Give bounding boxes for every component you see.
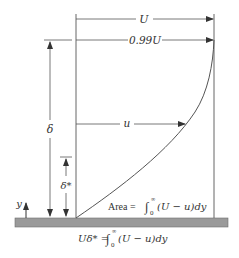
label-099U: 0.99U [129, 34, 162, 46]
flat-plate [15, 218, 228, 227]
label-delta: δ [47, 123, 54, 136]
svg-text:Area =: Area = [108, 201, 136, 212]
svg-text:Uδ* =: Uδ* = [78, 233, 109, 244]
svg-text:(U − u)dy: (U − u)dy [157, 201, 207, 212]
label-u: u [124, 117, 131, 129]
velocity-profile-curve [76, 40, 214, 218]
displacement-equation: Uδ* = ∫ ∞ 0 (U − u)dy [78, 228, 168, 249]
svg-text:∞: ∞ [151, 196, 155, 202]
svg-text:(U − u)dy: (U − u)dy [118, 233, 168, 244]
svg-text:0: 0 [111, 241, 115, 249]
svg-text:0: 0 [150, 209, 154, 217]
svg-text:∞: ∞ [112, 228, 116, 234]
label-y: y [15, 198, 22, 209]
label-U: U [139, 13, 149, 26]
area-formula: Area = ∫ ∞ 0 (U − u)dy [108, 196, 207, 217]
label-delta-star: δ* [60, 180, 71, 191]
boundary-layer-diagram: U 0.99U u δ δ* y Area = ∫ ∞ 0 (U − u)dy … [0, 0, 239, 258]
